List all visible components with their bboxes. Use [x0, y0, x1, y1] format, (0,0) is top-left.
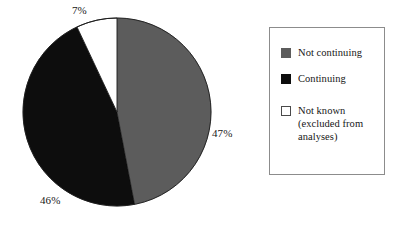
gray-swatch-icon: [281, 48, 291, 58]
legend-item-label: Not continuing: [298, 46, 362, 59]
pie-label-continuing: 46%: [40, 194, 60, 206]
pie-chart-figure: 7% 47% 46% Not continuing Continuing Not…: [0, 0, 403, 229]
black-swatch-icon: [281, 74, 291, 84]
legend-item-label: Not known: [298, 104, 363, 117]
pie-label-not-continuing: 47%: [212, 127, 232, 139]
legend-item-not-continuing[interactable]: Not continuing: [281, 46, 362, 59]
legend-item-label: Continuing: [298, 72, 346, 85]
pie-chart-svg: [0, 0, 250, 229]
legend-item-label-line3: analyses): [298, 130, 363, 143]
pie-chart-plot-area: 7% 47% 46%: [0, 0, 250, 229]
white-swatch-icon: [281, 106, 291, 116]
legend-item-label-group: Not known (excluded from analyses): [298, 104, 363, 143]
pie-label-not-known: 7%: [72, 4, 87, 16]
legend-item-label-line2: (excluded from: [298, 117, 363, 130]
legend-item-not-known[interactable]: Not known (excluded from analyses): [281, 104, 363, 143]
chart-legend: Not continuing Continuing Not known (exc…: [269, 27, 385, 175]
pie-slice-not-continuing[interactable]: [117, 18, 211, 204]
legend-item-continuing[interactable]: Continuing: [281, 72, 346, 85]
